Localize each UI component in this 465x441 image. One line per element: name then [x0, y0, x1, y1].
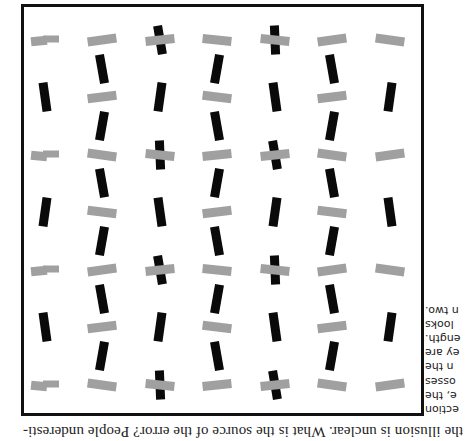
gray-horizontal-bar — [260, 34, 290, 46]
black-vertical-bar — [384, 82, 397, 112]
black-vertical-bar — [95, 54, 109, 84]
black-vertical-bar — [325, 284, 339, 314]
gray-horizontal-bar — [87, 149, 117, 162]
gray-horizontal-bar — [260, 264, 290, 276]
gray-horizontal-bar — [375, 149, 405, 162]
black-vertical-bar — [210, 54, 224, 84]
gray-horizontal-bar — [87, 379, 117, 392]
black-vertical-bar — [39, 82, 52, 112]
document-page: the illusion is unclear. What is the sou… — [0, 0, 465, 441]
gray-horizontal-bar — [317, 321, 347, 333]
black-vertical-bar — [95, 226, 109, 256]
gray-horizontal-bar — [145, 149, 175, 161]
black-vertical-bar — [325, 168, 339, 198]
gray-horizontal-bar — [87, 34, 117, 47]
black-vertical-bar — [384, 197, 397, 227]
gray-horizontal-bar — [87, 206, 117, 218]
black-vertical-bar — [95, 168, 109, 198]
black-vertical-bar — [39, 312, 52, 342]
gray-horizontal-bar — [145, 264, 175, 276]
gray-split-bar — [31, 36, 48, 47]
gray-horizontal-bar — [317, 91, 347, 103]
illusion-figure — [0, 0, 465, 441]
black-vertical-bar — [384, 312, 397, 342]
gray-horizontal-bar — [202, 379, 232, 391]
black-vertical-bar — [325, 226, 339, 256]
black-vertical-bar — [95, 111, 109, 141]
gray-split-bar — [31, 266, 48, 277]
gray-horizontal-bar — [202, 264, 232, 276]
gray-split-bar — [31, 381, 48, 392]
gray-horizontal-bar — [145, 34, 175, 46]
gray-horizontal-bar — [317, 379, 347, 392]
gray-horizontal-bar — [145, 379, 175, 391]
gray-horizontal-bar — [202, 321, 232, 333]
gray-horizontal-bar — [260, 379, 290, 391]
gray-horizontal-bar — [317, 206, 347, 218]
black-vertical-bar — [95, 341, 109, 371]
gray-horizontal-bar — [317, 264, 347, 277]
black-vertical-bar — [269, 82, 282, 112]
gray-horizontal-bar — [260, 149, 290, 161]
black-vertical-bar — [210, 341, 224, 371]
black-vertical-bar — [210, 226, 224, 256]
gray-horizontal-bar — [87, 321, 117, 333]
black-vertical-bar — [154, 197, 167, 227]
black-vertical-bar — [325, 111, 339, 141]
gray-horizontal-bar — [87, 91, 117, 103]
gray-horizontal-bar — [317, 34, 347, 47]
black-vertical-bar — [325, 341, 339, 371]
gray-horizontal-bar — [317, 149, 347, 162]
black-vertical-bar — [210, 168, 224, 198]
black-vertical-bar — [95, 284, 109, 314]
gray-split-bar — [31, 151, 48, 162]
black-vertical-bar — [269, 312, 282, 342]
gray-horizontal-bar — [375, 34, 405, 47]
black-vertical-bar — [154, 82, 167, 112]
gray-horizontal-bar — [87, 264, 117, 277]
black-vertical-bar — [325, 54, 339, 84]
black-vertical-bar — [210, 284, 224, 314]
black-vertical-bar — [39, 197, 52, 227]
black-vertical-bar — [154, 312, 167, 342]
black-vertical-bar — [210, 111, 224, 141]
gray-horizontal-bar — [202, 206, 232, 218]
black-vertical-bar — [269, 197, 282, 227]
gray-horizontal-bar — [202, 149, 232, 161]
gray-horizontal-bar — [202, 91, 232, 103]
gray-horizontal-bar — [375, 264, 405, 277]
gray-horizontal-bar — [375, 379, 405, 392]
gray-horizontal-bar — [202, 34, 232, 46]
